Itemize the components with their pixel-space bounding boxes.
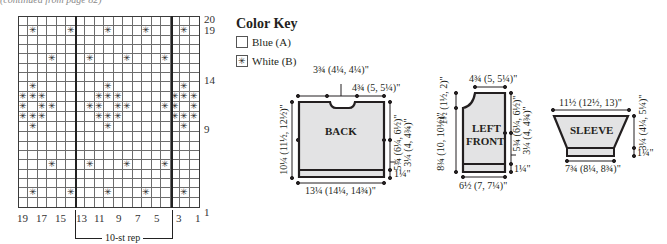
back-label: BACK [325, 125, 357, 137]
sleeve-label: SLEEVE [570, 124, 613, 136]
back-shoulder-width: 4¾ (5, 5¼)" [352, 82, 400, 93]
front-width: 6½ (7, 7¼)" [459, 180, 507, 191]
front-side-to-armhole: 3¼ (4, 4¾)" [521, 96, 532, 166]
sleeve-ribbing: 1¼" [637, 147, 654, 158]
sleeve-top-width: 11½ (12½, 13)" [559, 97, 622, 108]
front-label-line2: FRONT [466, 135, 505, 147]
back-length: 10¼ (11½, 12½)" [278, 100, 289, 180]
front-shoulder-width: 4¾ (5, 5¼)" [469, 73, 517, 84]
schematic-drawings [0, 0, 667, 244]
front-label-line1: LEFT [472, 122, 501, 134]
back-ribbing: 1¼" [394, 168, 411, 179]
front-body-length: 8¾ (10, 10½)" [435, 107, 446, 177]
sleeve-cuff-width: 7¾ (8¼, 8¾)" [565, 163, 621, 174]
front-ribbing: 1¼" [514, 163, 531, 174]
back-neck-width: 3¾ (4¼, 4¼)" [313, 64, 369, 75]
back-width: 13¼ (14¼, 14¾)" [305, 185, 376, 196]
